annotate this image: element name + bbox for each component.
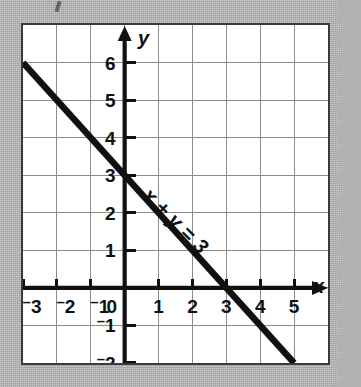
y-axis-label: y	[137, 27, 150, 49]
x-axis-label: x	[312, 275, 325, 297]
y-tick-label: 2	[105, 203, 116, 224]
y-tick-label: 4	[105, 128, 116, 149]
x-tick-labels: –3–2–1012345	[23, 293, 300, 317]
y-tick-label: 3	[105, 165, 116, 186]
x-tick-label: 1	[153, 296, 164, 317]
x-tick-label: –2	[56, 293, 75, 317]
y-tick-label: –2	[97, 350, 116, 363]
y-tick-label: 5	[105, 90, 116, 111]
equation-annotation: x + y = 3	[138, 182, 214, 258]
x-tick-label: 3	[221, 296, 232, 317]
y-axis-arrowhead	[118, 26, 132, 41]
y-tick-label: 6	[105, 53, 116, 74]
x-tick-label: –3	[23, 293, 41, 317]
y-tick-label: –1	[97, 312, 116, 336]
y-tick-label: 1	[105, 240, 116, 261]
x-tick-label: 2	[187, 296, 198, 317]
x-tick-label: 0	[106, 296, 117, 317]
graph-frame: –3–2–1012345 654321–1–2 x y x + y = 3	[21, 23, 330, 365]
coordinate-plot: –3–2–1012345 654321–1–2 x y x + y = 3	[23, 25, 328, 363]
y-tick-labels: 654321–1–2	[97, 53, 116, 363]
x-tick-label: 5	[289, 296, 300, 317]
x-tick-label: 4	[255, 296, 266, 317]
